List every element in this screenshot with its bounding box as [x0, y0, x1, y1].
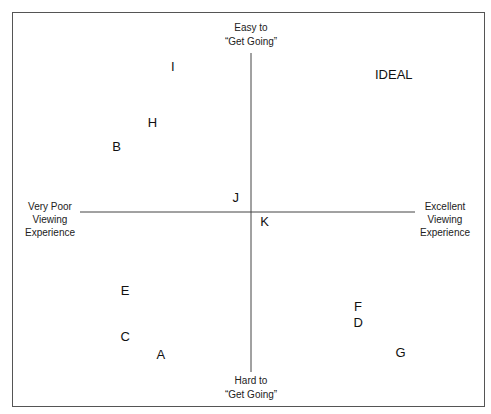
- point-g: G: [396, 345, 406, 360]
- x-axis-left-label-line-1: Very Poor: [28, 201, 73, 212]
- point-e: E: [121, 283, 130, 298]
- point-c: C: [121, 329, 130, 344]
- point-j: J: [232, 190, 239, 205]
- x-axis-right-label-line-1: Excellent: [425, 201, 466, 212]
- positioning-chart: Easy to “Get Going” Hard to “Get Going” …: [0, 0, 491, 414]
- x-axis-right-label-line-2: Viewing: [428, 214, 463, 225]
- point-b: B: [112, 139, 121, 154]
- y-axis-bottom-label-line-2: “Get Going”: [225, 389, 277, 400]
- point-ideal: IDEAL: [375, 67, 413, 82]
- chart-frame: [13, 13, 485, 407]
- y-axis-top-label-line-2: “Get Going”: [225, 36, 277, 47]
- x-axis-left-label-line-3: Experience: [25, 227, 75, 238]
- point-h: H: [148, 115, 157, 130]
- y-axis-top-label-line-1: Easy to: [234, 22, 268, 33]
- point-a: A: [157, 347, 166, 362]
- x-axis-left-label-line-2: Viewing: [33, 214, 68, 225]
- x-axis-right-label-line-3: Experience: [420, 227, 470, 238]
- point-d: D: [353, 315, 362, 330]
- y-axis-bottom-label-line-1: Hard to: [235, 375, 268, 386]
- point-i: I: [171, 59, 175, 74]
- point-k: K: [260, 214, 269, 229]
- point-f: F: [354, 299, 362, 314]
